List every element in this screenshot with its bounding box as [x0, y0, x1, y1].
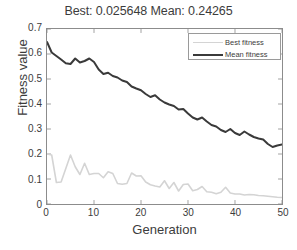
x-tick-label: 40 — [221, 207, 251, 218]
y-axis-label: Fitness value — [15, 8, 30, 148]
x-tick-label: 50 — [268, 207, 297, 218]
chart-title: Best: 0.025648 Mean: 0.24265 — [0, 4, 297, 18]
x-tick-label: 30 — [173, 207, 203, 218]
legend-item-mean-fitness[interactable]: Mean fitness — [189, 48, 282, 60]
legend: Best fitnessMean fitness — [188, 33, 281, 60]
x-axis-label: Generation — [46, 222, 283, 237]
x-tick-label: 10 — [78, 207, 108, 218]
legend-label: Best fitness — [225, 38, 264, 47]
legend-label: Mean fitness — [225, 50, 268, 59]
legend-item-best-fitness[interactable]: Best fitness — [189, 36, 282, 48]
x-axis-tick-labels: 01020304050 — [0, 207, 297, 221]
fitness-plot-figure: Best: 0.025648 Mean: 0.24265 00.10.20.30… — [0, 0, 297, 250]
x-tick-label: 0 — [31, 207, 61, 218]
y-tick-label: 0.1 — [18, 175, 42, 185]
x-tick-label: 20 — [126, 207, 156, 218]
legend-line-swatch-icon — [193, 49, 223, 59]
series-line-0 — [47, 154, 282, 198]
y-tick-label: 0.2 — [18, 149, 42, 159]
legend-line-swatch-icon — [193, 37, 223, 47]
